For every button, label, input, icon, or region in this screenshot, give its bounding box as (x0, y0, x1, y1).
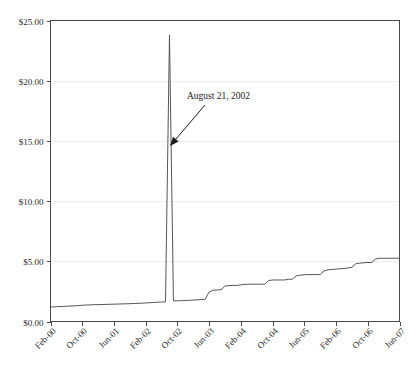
x-axis-tick-label: Oct-06 (350, 325, 375, 350)
chart-figure: $0.00$5.00$10.00$15.00$20.00$25.00 Feb-0… (0, 0, 418, 376)
plot-area-frame (51, 21, 400, 322)
y-axis-ticks (47, 22, 51, 323)
x-axis-tick-label: Feb-00 (33, 325, 58, 350)
y-axis-tick-label: $25.00 (19, 17, 44, 27)
y-axis-labels: $0.00$5.00$10.00$15.00$20.00$25.00 (19, 17, 44, 328)
x-axis-tick-label: Oct-00 (64, 325, 89, 350)
price-history-line-chart: $0.00$5.00$10.00$15.00$20.00$25.00 Feb-0… (0, 0, 418, 376)
x-axis-tick-label: Feb-04 (223, 325, 248, 350)
y-axis-tick-label: $15.00 (19, 137, 44, 147)
x-axis-tick-label: Oct-02 (159, 326, 184, 351)
annotation-arrow-line (176, 105, 205, 139)
y-axis-tick-label: $5.00 (23, 257, 44, 267)
y-axis-tick-label: $10.00 (19, 197, 44, 207)
x-axis-tick-label: Jun-05 (287, 325, 312, 350)
price-series-line (51, 35, 400, 307)
x-axis-tick-label: Jun-01 (97, 326, 121, 350)
annotation-label: August 21, 2002 (187, 91, 250, 101)
x-axis-tick-label: Feb-02 (128, 326, 153, 351)
x-axis-tick-label: Jun-03 (192, 325, 217, 350)
x-axis-ticks (52, 322, 401, 326)
x-axis-tick-label: Feb-06 (318, 325, 343, 350)
x-axis-tick-label: Oct-04 (255, 325, 280, 350)
annotation-august-21-2002: August 21, 2002 (170, 91, 250, 146)
y-axis-tick-label: $20.00 (19, 77, 44, 87)
y-axis-tick-label: $0.00 (23, 318, 44, 328)
gridlines (51, 82, 400, 262)
x-axis-labels: Feb-00Oct-00Jun-01Feb-02Oct-02Jun-03Feb-… (33, 325, 407, 350)
x-axis-tick-label: Jun-07 (383, 325, 408, 350)
